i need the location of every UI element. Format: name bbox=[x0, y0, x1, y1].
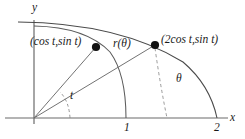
diagram-canvas bbox=[0, 0, 245, 139]
x-tick-label-2: 2 bbox=[214, 122, 220, 134]
angle-theta-label: θ bbox=[176, 73, 182, 85]
ray-to-ellipse-point bbox=[34, 45, 155, 118]
unit-circle-point-label: (cos t,sin t) bbox=[30, 36, 81, 48]
ray-to-unit-circle-point bbox=[34, 47, 96, 118]
radius-label: r(θ) bbox=[113, 38, 131, 50]
unit-circle-point-marker bbox=[92, 43, 100, 51]
x-axis-label: x bbox=[230, 112, 235, 124]
ellipse-point-label: (2cos t,sin t) bbox=[161, 34, 218, 46]
angle-t-label: t bbox=[70, 90, 73, 102]
angle-theta-dashed-guide bbox=[155, 48, 167, 118]
ellipse-point-marker bbox=[151, 41, 159, 49]
y-axis-label: y bbox=[32, 2, 37, 14]
angle-t-arc bbox=[60, 92, 70, 118]
math-diagram: y x (cos t,sin t) (2cos t,sin t) r(θ) t … bbox=[0, 0, 245, 139]
x-tick-label-1: 1 bbox=[124, 122, 130, 134]
